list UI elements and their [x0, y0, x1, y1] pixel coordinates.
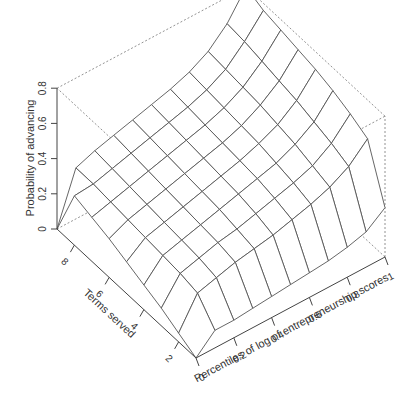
- x-tick: [234, 338, 237, 346]
- x-tick: [196, 358, 199, 366]
- y-tick-label: 8: [59, 256, 71, 268]
- surface-plot: 00.20.40.60.8 2468 00.20.40.60.81 Probab…: [0, 0, 410, 404]
- y-tick: [105, 277, 109, 284]
- x-tick: [309, 297, 312, 305]
- x-tick: [347, 277, 350, 285]
- z-tick-label: 0.8: [37, 81, 48, 95]
- y-tick: [140, 310, 144, 317]
- z-axis-label: Probability of advancing: [24, 100, 36, 217]
- x-tick: [272, 318, 275, 326]
- x-tick: [385, 257, 388, 265]
- z-tick-label: 0.2: [37, 186, 48, 200]
- y-tick-label: 2: [163, 352, 175, 364]
- z-axis: 00.20.40.60.8: [37, 81, 57, 232]
- y-tick: [70, 245, 74, 252]
- z-tick-label: 0.4: [37, 151, 48, 165]
- z-tick-label: 0.6: [37, 116, 48, 130]
- y-axis-label: Terms served: [81, 286, 138, 340]
- y-tick: [175, 342, 179, 349]
- z-tick-label: 0: [37, 226, 48, 232]
